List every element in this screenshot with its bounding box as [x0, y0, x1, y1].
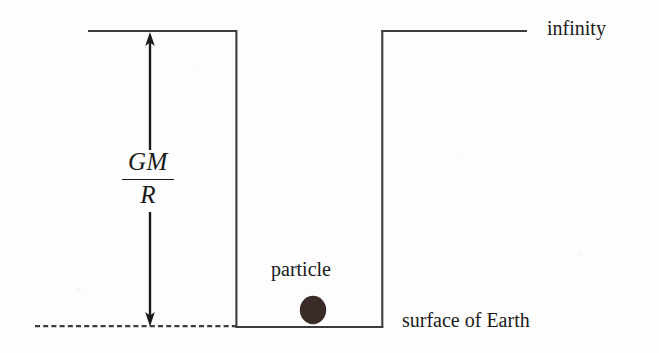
surface-of-earth-label: surface of Earth — [402, 310, 530, 330]
fraction-bar — [122, 179, 174, 181]
fraction-numerator: GM — [108, 148, 188, 177]
fraction-denominator: R — [108, 181, 188, 210]
particle-circle — [300, 296, 326, 324]
well-depth-fraction-label: GM R — [108, 148, 188, 210]
infinity-label: infinity — [547, 18, 606, 38]
particle-label: particle — [271, 259, 331, 279]
potential-well-drawing — [0, 0, 659, 353]
potential-well-figure: GM R infinity surface of Earth particle — [0, 0, 659, 353]
